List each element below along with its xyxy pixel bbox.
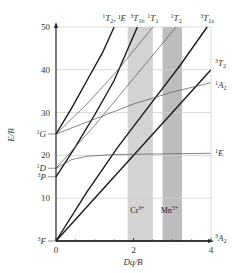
series-label-1A2: 1A2 <box>215 80 227 91</box>
bands-layer: Cr3+Mn5+ <box>128 27 182 241</box>
series-label-3T1b: 3T1b <box>130 13 144 24</box>
series-label-3T2: 3T2 <box>215 58 226 69</box>
series-line-1T2-1E <box>56 27 114 134</box>
ticks-layer: 1020304050024 <box>41 22 214 255</box>
x-tick-label: 0 <box>54 245 59 255</box>
series-line-1T2 <box>56 27 176 168</box>
series-label-1T2-1E: 1T2, ¹E <box>102 13 126 24</box>
y-tick-label: 50 <box>41 22 51 32</box>
y-axis-label: E/B <box>6 128 16 143</box>
free-ion-term-1G: 1G <box>37 129 47 139</box>
free-ion-term-3P: 3P <box>38 172 47 182</box>
y-tick-label: 30 <box>41 108 51 118</box>
x-tick-label: 2 <box>131 245 136 255</box>
terms-layer: 3F3P1D1G <box>37 129 57 246</box>
series-label-3T1a: 3T1a <box>200 13 214 24</box>
x-tick-label: 4 <box>209 245 214 255</box>
tanabe-sugano-diagram: Cr3+Mn5+ E/B Dq/B 1020304050024 3F3P1D1G… <box>0 0 236 273</box>
series-label-1T2: 1T2 <box>171 13 182 24</box>
y-tick-label: 10 <box>41 193 51 203</box>
series-label-1E: 1E <box>215 148 224 158</box>
free-ion-term-3F: 3F <box>38 236 47 246</box>
y-tick-label: 20 <box>41 150 51 160</box>
y-tick-label: 40 <box>41 65 51 75</box>
axes-layer: E/B Dq/B <box>6 22 214 267</box>
series-label-3A2: 3A2 <box>215 233 227 244</box>
y-axis-arrow-icon <box>54 22 58 28</box>
x-axis-label: Dq/B <box>123 257 144 267</box>
series-label-1T1: 1T1 <box>147 13 158 24</box>
